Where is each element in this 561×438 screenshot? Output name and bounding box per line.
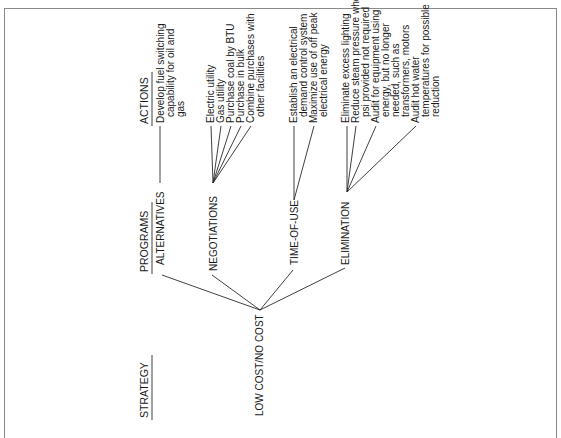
program-negotiations-label: NEGOTIATIONS: [208, 196, 219, 271]
branch-to-negotiations: [212, 275, 260, 310]
strategy-branches: [162, 268, 345, 310]
program-alternatives-label: ALTERNATIVES: [155, 191, 166, 265]
connector-negotiations-3: [213, 126, 231, 183]
strategy-low-cost-no-cost: LOW COST/NO COST: [254, 314, 265, 416]
branch-to-time-of-use: [260, 270, 293, 310]
program-alternatives: ALTERNATIVES Develop fuel switching capa…: [155, 24, 186, 266]
program-time-of-use-label: TIME-OF-USE: [289, 200, 300, 265]
action-line: electrical energy: [318, 44, 329, 117]
connector-time-of-use-2: [294, 126, 314, 200]
program-negotiations: NEGOTIATIONS Electric utility Gas utilit…: [205, 14, 266, 272]
program-elimination: ELIMINATION Eliminate excess lighting Re…: [340, 0, 441, 265]
program-time-of-use: TIME-OF-USE Establish an electrical dema…: [288, 12, 329, 265]
header-programs: PROGRAMS: [138, 202, 152, 274]
header-strategy: STRATEGY: [138, 355, 152, 420]
connector-negotiations-5: [213, 126, 251, 183]
header-strategy-label: STRATEGY: [138, 362, 150, 418]
branch-to-elimination: [260, 268, 345, 310]
branch-to-alternatives: [162, 275, 260, 310]
connector-elimination-4: [347, 126, 416, 192]
action-line: gas: [175, 101, 186, 117]
connector-negotiations-1: [211, 126, 213, 183]
header-programs-label: PROGRAMS: [138, 211, 150, 272]
header-actions-label: ACTIONS: [138, 77, 150, 124]
program-elimination-label: ELIMINATION: [340, 202, 351, 265]
header-actions: ACTIONS: [138, 72, 152, 126]
action-line: reduction: [430, 76, 441, 117]
action-line: other facilities: [255, 56, 266, 117]
